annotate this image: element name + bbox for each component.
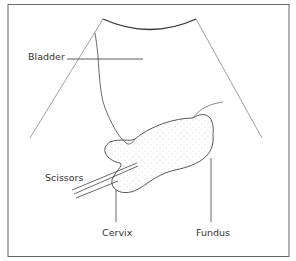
scan-sector [30,19,262,138]
label-cervix: Cervix [102,228,132,238]
label-bladder: Bladder [28,52,65,62]
bladder-wall [95,33,135,144]
label-fundus: Fundus [196,228,230,238]
label-scissors: Scissors [45,173,83,183]
uterus [105,115,213,193]
ultrasound-diagram [0,0,296,261]
probe-arc [103,19,196,30]
